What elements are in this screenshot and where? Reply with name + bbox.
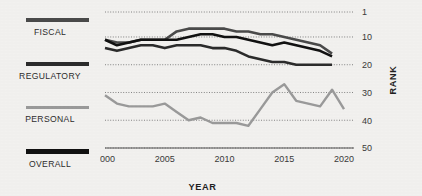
legend-item-fiscal: FISCAL: [0, 18, 100, 37]
x-tick-label-2005: 2005: [155, 154, 175, 164]
x-tick-label-2015: 2015: [274, 154, 294, 164]
legend-label-overall: OVERALL: [0, 159, 100, 169]
chart-legend: FISCAL REGULATORY PERSONAL OVERALL: [0, 0, 100, 196]
legend-item-overall: OVERALL: [0, 149, 100, 169]
x-tick-label-2000: 2000: [100, 154, 115, 164]
legend-swatch-personal: [26, 106, 89, 109]
y-axis-title: RANK: [388, 66, 398, 95]
y-tick-label-30: 30: [362, 88, 372, 98]
y-tick-label-10: 10: [362, 32, 372, 42]
y-tick-label-20: 20: [362, 60, 372, 70]
x-tick-label-2020: 2020: [334, 154, 354, 164]
legend-label-fiscal: FISCAL: [0, 27, 100, 37]
legend-swatch-fiscal: [26, 18, 89, 22]
y-tick-label-1: 1: [362, 7, 367, 17]
chart-series-layer: [105, 29, 344, 126]
chart-plot-area: 1102030405020002005201020152020 YEAR RAN…: [100, 0, 422, 196]
chart-svg: 1102030405020002005201020152020 YEAR RAN…: [100, 0, 422, 196]
legend-label-regulatory: REGULATORY: [0, 71, 100, 81]
legend-item-personal: PERSONAL: [0, 106, 100, 124]
series-line-regulatory: [105, 45, 332, 64]
x-tick-label-2010: 2010: [214, 154, 234, 164]
legend-swatch-regulatory: [26, 62, 89, 66]
legend-swatch-overall: [26, 149, 89, 154]
chart-gridlines: [105, 12, 354, 148]
series-line-personal: [105, 84, 344, 126]
legend-label-personal: PERSONAL: [0, 114, 100, 124]
x-axis-title: YEAR: [189, 182, 217, 192]
y-tick-label-50: 50: [362, 143, 372, 153]
y-tick-label-40: 40: [362, 116, 372, 126]
legend-item-regulatory: REGULATORY: [0, 62, 100, 81]
chart-figure: FISCAL REGULATORY PERSONAL OVERALL 11020…: [0, 0, 422, 196]
